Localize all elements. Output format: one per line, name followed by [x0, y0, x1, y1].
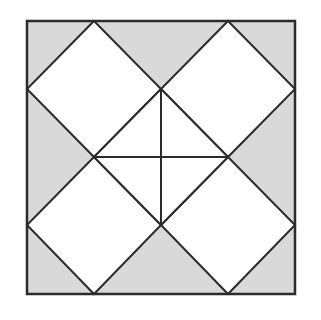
quilt-pattern-diagram	[0, 0, 321, 320]
diagram-canvas	[0, 0, 321, 320]
